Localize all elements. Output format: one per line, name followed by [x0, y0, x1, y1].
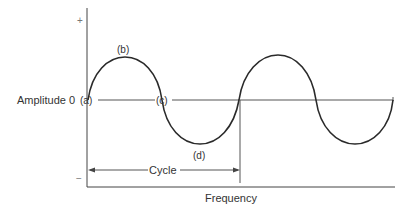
plus-sign: + — [77, 15, 83, 26]
minus-sign: − — [76, 173, 82, 184]
amplitude-label: Amplitude 0 — [17, 94, 75, 106]
point-d-label: (d) — [193, 150, 205, 161]
arrowhead-right-icon — [233, 168, 240, 173]
point-b-label: (b) — [117, 44, 129, 55]
point-c-label: (c) — [156, 95, 168, 106]
point-a-label: (a) — [80, 95, 92, 106]
sine-wave-diagram: + − Amplitude 0 (a) (b) (c) (d) Cycle Fr… — [0, 0, 408, 210]
cycle-label: Cycle — [149, 164, 177, 176]
frequency-label: Frequency — [205, 192, 257, 204]
arrowhead-left-icon — [88, 168, 95, 173]
